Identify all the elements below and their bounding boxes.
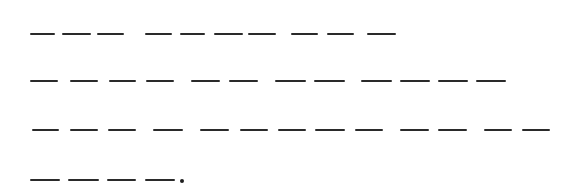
letter-blank — [327, 33, 354, 35]
letter-blank — [70, 80, 98, 82]
letter-blank — [62, 33, 91, 35]
letter-blank — [32, 129, 59, 131]
letter-blank — [180, 33, 205, 35]
letter-blank — [30, 80, 58, 82]
letter-blank — [278, 129, 306, 131]
letter-blank — [361, 80, 392, 82]
letter-blank — [145, 179, 175, 181]
letter-blank — [70, 129, 98, 131]
letter-blank — [153, 129, 183, 131]
letter-blank — [30, 33, 55, 35]
letter-blank — [291, 33, 318, 35]
letter-blank — [229, 80, 258, 82]
letter-blanks-puzzle — [0, 0, 581, 193]
letter-blank — [476, 80, 506, 82]
letter-blank — [30, 179, 60, 181]
letter-blank — [400, 80, 430, 82]
letter-blank — [68, 179, 99, 181]
letter-blank — [109, 80, 136, 82]
letter-blank — [522, 129, 550, 131]
letter-blank — [438, 129, 467, 131]
letter-blank — [214, 33, 243, 35]
letter-blank — [315, 129, 345, 131]
letter-blank — [400, 129, 429, 131]
letter-blank — [107, 179, 136, 181]
letter-blank — [275, 80, 306, 82]
letter-blank — [314, 80, 345, 82]
letter-blank — [484, 129, 512, 131]
letter-blank — [240, 129, 268, 131]
letter-blank — [248, 33, 276, 35]
letter-blank — [97, 33, 124, 35]
period-mark — [180, 179, 184, 183]
letter-blank — [438, 80, 468, 82]
letter-blank — [108, 129, 136, 131]
letter-blank — [355, 129, 383, 131]
letter-blank — [191, 80, 220, 82]
letter-blank — [200, 129, 229, 131]
letter-blank — [367, 33, 396, 35]
letter-blank — [146, 80, 174, 82]
letter-blank — [145, 33, 172, 35]
